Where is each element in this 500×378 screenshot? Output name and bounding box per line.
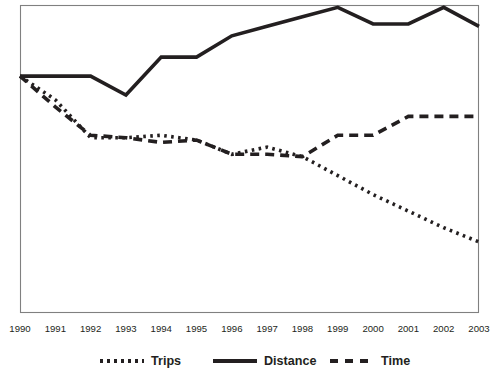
legend-label-trips: Trips: [151, 354, 181, 368]
x-tick-label-2003: 2003: [468, 323, 489, 334]
legend-label-distance: Distance: [264, 354, 317, 368]
x-tick-label-1990: 1990: [9, 323, 30, 334]
x-tick-label-1991: 1991: [45, 323, 66, 334]
x-tick-label-2000: 2000: [362, 323, 383, 334]
x-tick-label-1993: 1993: [115, 323, 136, 334]
x-tick-label-1999: 1999: [327, 323, 348, 334]
x-tick-label-1998: 1998: [292, 323, 313, 334]
x-tick-label-1997: 1997: [256, 323, 277, 334]
x-tick-label-1995: 1995: [186, 323, 207, 334]
line-chart: 1990199119921993199419951996199719981999…: [0, 0, 500, 378]
legend-label-time: Time: [381, 354, 410, 368]
x-tick-label-2002: 2002: [433, 323, 454, 334]
plot-area-frame: [21, 6, 479, 313]
x-tick-label-1996: 1996: [221, 323, 242, 334]
x-tick-label-1992: 1992: [80, 323, 101, 334]
x-tick-label-1994: 1994: [151, 323, 173, 334]
x-tick-label-2001: 2001: [398, 323, 419, 334]
